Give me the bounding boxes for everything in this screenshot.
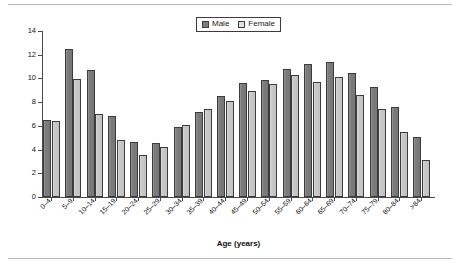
bar-male: [174, 127, 182, 197]
bar-female: [269, 84, 277, 197]
bar-male: [108, 116, 116, 197]
bar-group: 45–49: [238, 31, 260, 197]
bar-male: [152, 143, 160, 197]
bar-male: [195, 112, 203, 197]
y-axis-tick-label: 2: [20, 169, 36, 177]
bar-group: 30–34: [173, 31, 195, 197]
bar-female: [117, 140, 125, 197]
bar-group: 65–69: [325, 31, 347, 197]
x-axis-line: [42, 197, 435, 198]
y-axis-tick-label: 12: [20, 51, 36, 59]
legend-label-female: Female: [248, 19, 275, 29]
bar-group: 10–14: [86, 31, 108, 197]
bar-male: [348, 73, 356, 198]
bar-group: 20–24: [129, 31, 151, 197]
x-axis-tick-mark: [399, 197, 400, 201]
bar-female: [73, 79, 81, 197]
bar-female: [356, 95, 364, 197]
x-axis-title: Age (years): [42, 239, 435, 248]
bar-female: [378, 109, 386, 197]
y-axis-tick-label: 6: [20, 122, 36, 130]
legend-item-female: Female: [238, 19, 275, 29]
bar-male: [413, 137, 421, 197]
bar-female: [422, 160, 430, 197]
bar-female: [226, 101, 234, 197]
bar-group: 75–79: [369, 31, 391, 197]
y-axis-tick-mark: [38, 197, 42, 198]
x-axis-tick-mark: [116, 197, 117, 201]
bar-male: [217, 96, 225, 197]
y-axis-tick-label: 0: [20, 193, 36, 201]
bar-female: [139, 155, 147, 197]
legend-item-male: Male: [202, 19, 229, 29]
bar-male: [261, 80, 269, 197]
bar-male: [239, 83, 247, 197]
bar-group: 35–39: [194, 31, 216, 197]
bar-male: [304, 64, 312, 197]
bar-group: 5–9: [64, 31, 86, 197]
bar-group: >84: [412, 31, 434, 197]
y-axis-tick-label: 8: [20, 98, 36, 106]
bar-male: [130, 142, 138, 197]
legend-label-male: Male: [212, 19, 229, 29]
x-axis-tick-mark: [312, 197, 313, 201]
male-swatch-icon: [202, 21, 209, 28]
bar-groups: 0–45–910–1415–1920–2425–2930–3435–3940–4…: [42, 31, 434, 197]
bar-group: 0–4: [42, 31, 64, 197]
bar-female: [182, 125, 190, 197]
bar-female: [95, 114, 103, 197]
bar-group: 15–19: [107, 31, 129, 197]
bar-male: [391, 107, 399, 197]
y-axis-tick-label: 14: [20, 27, 36, 35]
bar-female: [204, 109, 212, 197]
bar-group: 25–29: [151, 31, 173, 197]
bar-male: [65, 49, 73, 197]
bar-male: [326, 62, 334, 197]
plot-area: 02468101214 Cases per 100,000 population…: [42, 31, 434, 197]
bar-female: [400, 132, 408, 197]
bottom-divider-rule: [8, 258, 452, 259]
chart-figure: Male Female 02468101214 Cases per 100,00…: [0, 0, 460, 267]
bar-group: 80–84: [390, 31, 412, 197]
bar-female: [313, 82, 321, 197]
top-divider-rule: [8, 4, 452, 5]
bar-group: 70–74: [347, 31, 369, 197]
bar-male: [370, 87, 378, 197]
bar-group: 55–59: [282, 31, 304, 197]
female-swatch-icon: [238, 21, 245, 28]
bar-male: [43, 120, 51, 197]
bar-male: [283, 69, 291, 197]
bar-female: [160, 147, 168, 197]
bar-female: [248, 91, 256, 197]
y-axis-tick-label: 10: [20, 74, 36, 82]
bar-male: [87, 70, 95, 197]
bar-female: [335, 77, 343, 197]
bar-group: 40–44: [216, 31, 238, 197]
bar-group: 50–54: [260, 31, 282, 197]
chart-legend: Male Female: [196, 17, 281, 32]
x-axis-tick-mark: [203, 197, 204, 201]
bar-female: [291, 75, 299, 197]
y-axis-tick-label: 4: [20, 146, 36, 154]
bar-group: 60–64: [303, 31, 325, 197]
bar-female: [52, 121, 60, 197]
